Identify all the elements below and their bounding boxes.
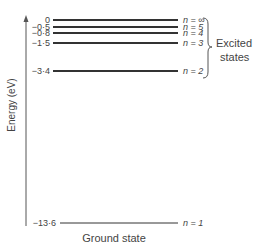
axis-arrow-icon — [24, 15, 29, 22]
quantum-number-label: n = 2 — [183, 66, 203, 76]
excited-states-label-line2: states — [220, 51, 250, 63]
axis-title: Energy (eV) — [6, 78, 17, 131]
quantum-number-label: n = 3 — [183, 38, 203, 48]
ground-state-label: Ground state — [82, 232, 146, 244]
energy-value-label: −0·8 — [32, 28, 50, 38]
energy-value-label: −3·4 — [32, 66, 50, 76]
excited-states-brace — [203, 18, 212, 78]
energy-value-label: −1·5 — [32, 38, 50, 48]
excited-states-label-line1: Excited — [216, 37, 252, 49]
energy-value-label: −13·6 — [33, 218, 56, 228]
quantum-number-label: n = 4 — [183, 28, 203, 38]
quantum-number-label: n = 1 — [183, 218, 203, 228]
energy-level-diagram: Energy (eV) 0n = ∞−0·5n = 5−0·8n = 4−1·5… — [0, 0, 264, 251]
